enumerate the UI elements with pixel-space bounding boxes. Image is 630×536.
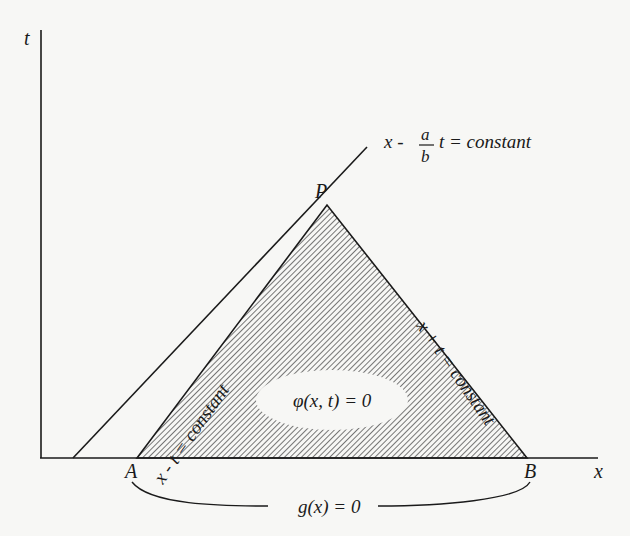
x-axis-label: x [593, 460, 603, 482]
base-brace [132, 482, 268, 506]
outer-line-frac-num: a [421, 125, 430, 144]
base-brace-right [378, 482, 530, 506]
point-a-label: A [123, 460, 138, 482]
base-label: g(x) = 0 [298, 496, 361, 518]
t-axis-label: t [24, 27, 30, 49]
outer-line-rhs: t = constant [439, 131, 532, 152]
point-b-label: B [524, 460, 536, 482]
outer-line-lhs: x - [383, 131, 404, 152]
outer-line-frac-den: b [421, 147, 430, 166]
point-p-label: P [314, 180, 327, 202]
characteristics-diagram: t x P A B x - a b t = constant x - t = c… [0, 0, 630, 536]
region-label: φ(x, t) = 0 [293, 390, 372, 412]
diagram-canvas: t x P A B x - a b t = constant x - t = c… [0, 0, 630, 536]
